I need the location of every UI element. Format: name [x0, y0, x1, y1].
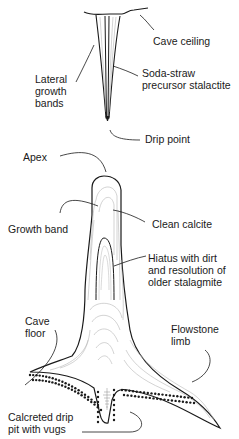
label-apex: Apex: [23, 151, 47, 163]
label-growth-band: Growth band: [8, 223, 68, 235]
label-clean-calcite: Clean calcite: [152, 218, 212, 230]
label-calcreted-drip-pit: Calcreted drip pit with vugs: [8, 411, 73, 435]
label-lateral-growth-bands: Lateral growth bands: [35, 73, 67, 109]
label-cave-ceiling: Cave ceiling: [153, 35, 210, 47]
label-flowstone-limb: Flowstone limb: [171, 323, 219, 347]
label-soda-straw: Soda-straw precursor stalactite: [142, 67, 231, 91]
cave-ceiling-line: [84, 8, 148, 15]
label-hiatus: Hiatus with dirt and resolution of older…: [148, 252, 226, 288]
label-cave-floor: Cave floor: [25, 315, 50, 339]
label-drip-point: Drip point: [145, 133, 190, 145]
